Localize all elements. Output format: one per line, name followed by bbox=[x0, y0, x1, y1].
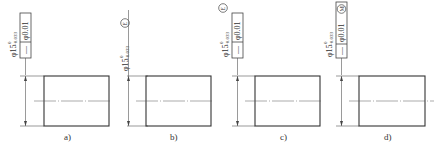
svg-text:−0.033: −0.033 bbox=[125, 45, 130, 60]
svg-text:0: 0 bbox=[7, 41, 12, 44]
caption-b: b) bbox=[170, 132, 178, 142]
envelope-modifier: E bbox=[219, 4, 228, 13]
drawing-canvas: φ0.01 — φ15 0 −0.033 a) φ15 0 −0.033 bbox=[0, 0, 437, 158]
svg-text:0: 0 bbox=[323, 41, 328, 44]
tolerance-frame: φ0.01 — M bbox=[336, 2, 347, 58]
straightness-symbol: — bbox=[21, 45, 30, 55]
svg-text:−0.033: −0.033 bbox=[329, 31, 334, 46]
frame-tolerance: φ0.01 bbox=[21, 21, 30, 40]
tolerance-frame: φ0.01 — bbox=[232, 13, 243, 58]
svg-text:φ0.01: φ0.01 bbox=[233, 21, 242, 40]
svg-text:M: M bbox=[339, 6, 345, 12]
svg-text:0: 0 bbox=[219, 41, 224, 44]
svg-text:E: E bbox=[122, 22, 128, 26]
svg-text:—: — bbox=[337, 46, 346, 56]
svg-text:E: E bbox=[220, 7, 226, 11]
figure-c: φ0.01 — φ15 0 −0.033 E c) bbox=[219, 4, 322, 142]
caption-a: a) bbox=[64, 132, 71, 142]
caption-c: c) bbox=[280, 132, 287, 142]
dimension-text: φ15 0 −0.033 bbox=[219, 31, 230, 57]
svg-text:φ0.01: φ0.01 bbox=[337, 23, 346, 42]
caption-d: d) bbox=[384, 132, 392, 142]
svg-text:−0.033: −0.033 bbox=[225, 31, 230, 46]
figure-b: φ15 0 −0.033 E b) bbox=[119, 10, 213, 142]
mmc-modifier: M bbox=[337, 5, 346, 14]
dimension-text: φ15 0 −0.033 bbox=[7, 31, 18, 57]
figure-a: φ0.01 — φ15 0 −0.033 a) bbox=[7, 13, 110, 142]
dimension-text: φ15 0 −0.033 bbox=[323, 31, 334, 57]
figure-d: φ0.01 — M φ15 0 −0.033 d) bbox=[323, 2, 434, 142]
svg-text:—: — bbox=[233, 45, 242, 55]
svg-text:0: 0 bbox=[119, 55, 124, 58]
envelope-modifier: E bbox=[121, 19, 130, 28]
svg-text:−0.033: −0.033 bbox=[13, 31, 18, 46]
tolerance-frame: φ0.01 — bbox=[20, 13, 31, 58]
